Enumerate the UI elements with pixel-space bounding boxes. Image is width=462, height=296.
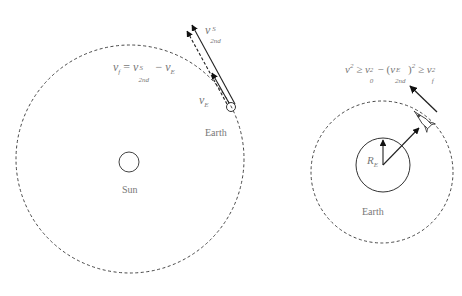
- vf-equation: vf = vS2nd − vE: [113, 61, 175, 76]
- rocket-velocity-arrow: [410, 86, 437, 112]
- diagram-canvas: [0, 0, 462, 296]
- sun-circle: [119, 152, 139, 172]
- ve-label: vE: [199, 94, 209, 109]
- escape-inequality: v2 ≥ v20 − (vE2nd)2 ≥ v2f: [345, 63, 437, 75]
- v2nd-label: vS2nd: [205, 24, 224, 36]
- rocket-icon: [410, 107, 435, 132]
- radial-arrow: [383, 128, 419, 165]
- earth-label-left: Earth: [205, 128, 227, 138]
- earth-label-right: Earth: [362, 207, 384, 217]
- earth-orbit-dashed: [16, 45, 244, 273]
- radius-label: RE: [367, 155, 378, 169]
- sun-label: Sun: [122, 185, 138, 195]
